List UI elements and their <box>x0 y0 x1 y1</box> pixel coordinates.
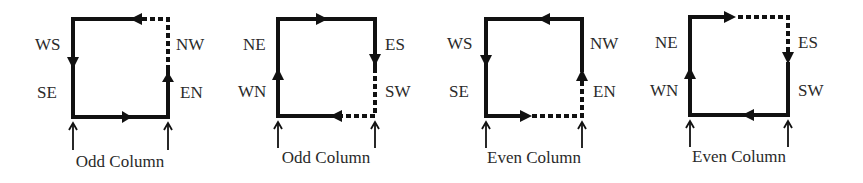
caption: Odd Column <box>76 152 165 171</box>
arrow-left-icon <box>130 13 142 25</box>
right-top-left-bottom-edges <box>486 19 582 116</box>
bottom-right-dashed <box>532 80 582 116</box>
arrow-up-icon <box>576 69 588 81</box>
right-top-dashed <box>140 19 168 70</box>
arrow-down-icon <box>67 57 79 69</box>
diagram-odd-column-1: WS SE NW EN Odd Column <box>35 13 205 171</box>
arrow-up-icon <box>684 67 696 79</box>
label-top-right: NW <box>176 35 205 54</box>
label-bottom-right: EN <box>593 82 616 101</box>
caption: Even Column <box>692 147 786 166</box>
label-top-left: WS <box>447 34 473 53</box>
caption: Even Column <box>487 148 581 167</box>
diagram-odd-column-2: NE WN ES SW Odd Column <box>238 13 411 167</box>
label-bottom-right: EN <box>180 83 203 102</box>
label-top-left: NE <box>655 33 678 52</box>
label-top-right: ES <box>798 33 818 52</box>
arrow-right-icon <box>724 11 736 23</box>
left-top-right-edges <box>278 19 375 116</box>
left-top-edges <box>690 17 725 115</box>
arrow-right-icon <box>122 111 132 123</box>
arrow-up-icon <box>162 72 174 82</box>
diagram-even-column-2: NE WN ES SW Even Column <box>650 11 824 166</box>
label-top-left: NE <box>243 35 266 54</box>
arrow-down-icon <box>369 54 381 66</box>
label-bottom-right: SW <box>385 82 411 101</box>
label-top-right: NW <box>590 34 619 53</box>
top-right-dashed <box>738 17 788 52</box>
diagram-even-column-1: WS SE NW EN Even Column <box>447 13 619 167</box>
arrow-left-icon <box>742 109 754 121</box>
label-bottom-left: SE <box>37 83 57 102</box>
arrow-right-icon <box>316 13 328 25</box>
arrow-right-icon <box>520 110 532 122</box>
label-bottom-right: SW <box>798 81 824 100</box>
arrow-down-icon <box>480 55 492 67</box>
right-bottom-edges <box>690 64 788 115</box>
label-bottom-left: WN <box>238 82 266 101</box>
right-bottom-dashed <box>340 68 375 116</box>
arrow-left-icon <box>538 13 550 25</box>
label-bottom-left: WN <box>650 81 678 100</box>
routing-diagram-canvas: WS SE NW EN Odd Column NE WN ES SW Odd C… <box>0 0 863 183</box>
caption: Odd Column <box>282 148 371 167</box>
label-top-left: WS <box>35 35 61 54</box>
label-top-right: ES <box>385 35 405 54</box>
arrow-up-icon <box>272 68 284 80</box>
label-bottom-left: SE <box>449 82 469 101</box>
